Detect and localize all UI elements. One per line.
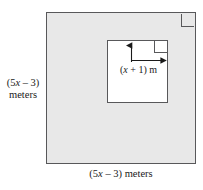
- inner-label-suffix: + 1) m: [128, 64, 157, 75]
- left-label-suffix: – 3): [20, 77, 39, 88]
- right-angle-marker-icon: [154, 41, 167, 53]
- outer-square-left-dimension-label: (5x – 3) meters: [2, 77, 44, 101]
- outer-square-bottom-dimension-label: (5x – 3) meters: [46, 168, 196, 180]
- geometry-figure: (x + 1) m (5x – 3) meters (5x – 3) meter…: [0, 0, 203, 190]
- inner-square-dimension-label: (x + 1) m: [107, 64, 168, 76]
- left-label-line1: (5x – 3): [2, 77, 44, 89]
- bottom-label-prefix: (5: [89, 168, 98, 179]
- right-angle-marker-icon: [181, 14, 194, 27]
- bottom-label-suffix: – 3) meters: [103, 168, 153, 179]
- left-label-line2: meters: [2, 89, 44, 101]
